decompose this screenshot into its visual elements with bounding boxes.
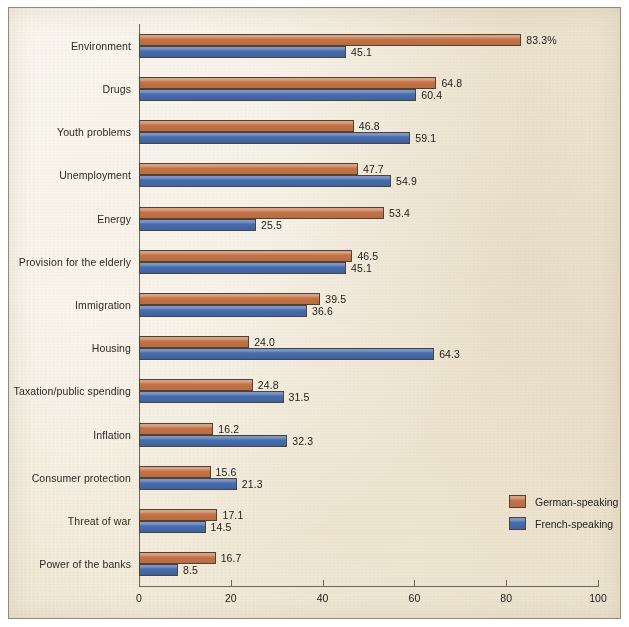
bar-value-label: 47.7 bbox=[363, 163, 384, 175]
bar-value-label: 31.5 bbox=[289, 391, 310, 403]
bar-value-label: 24.8 bbox=[258, 379, 279, 391]
bar-value-label: 64.8 bbox=[441, 77, 462, 89]
bar-french bbox=[139, 435, 287, 447]
bar-value-label: 60.4 bbox=[421, 89, 442, 101]
category-label: Inflation bbox=[9, 429, 131, 441]
category-label: Threat of war bbox=[9, 515, 131, 527]
bar-french bbox=[139, 219, 256, 231]
category-label: Drugs bbox=[9, 83, 131, 95]
bar-german bbox=[139, 509, 217, 521]
bar-german bbox=[139, 552, 216, 564]
x-axis-tick bbox=[139, 580, 140, 586]
bar-german bbox=[139, 34, 521, 46]
legend-item-german: German-speaking bbox=[509, 495, 618, 508]
bar-french bbox=[139, 305, 307, 317]
category-label: Provision for the elderly bbox=[9, 256, 131, 268]
bar-french bbox=[139, 175, 391, 187]
bar-value-label: 83.3% bbox=[526, 34, 556, 46]
legend-label-french: French-speaking bbox=[535, 518, 613, 530]
bar-value-label: 54.9 bbox=[396, 175, 417, 187]
x-axis-tick bbox=[598, 580, 599, 586]
bar-german bbox=[139, 163, 358, 175]
bar-value-label: 17.1 bbox=[222, 509, 243, 521]
bar-value-label: 59.1 bbox=[415, 132, 436, 144]
bar-german bbox=[139, 250, 352, 262]
x-axis-tick-label: 80 bbox=[500, 592, 512, 604]
bar-value-label: 32.3 bbox=[292, 435, 313, 447]
legend-item-french: French-speaking bbox=[509, 517, 618, 530]
bar-value-label: 15.6 bbox=[216, 466, 237, 478]
x-axis-tick bbox=[506, 580, 507, 586]
bar-french bbox=[139, 478, 237, 490]
bar-french bbox=[139, 391, 284, 403]
bar-value-label: 53.4 bbox=[389, 207, 410, 219]
bar-french bbox=[139, 46, 346, 58]
category-label: Youth problems bbox=[9, 126, 131, 138]
bar-german bbox=[139, 336, 249, 348]
bar-german bbox=[139, 293, 320, 305]
bar-value-label: 64.3 bbox=[439, 348, 460, 360]
x-axis-tick-label: 60 bbox=[409, 592, 421, 604]
bar-german bbox=[139, 379, 253, 391]
legend-swatch-german-icon bbox=[509, 495, 526, 508]
bar-value-label: 46.8 bbox=[359, 120, 380, 132]
bar-value-label: 14.5 bbox=[211, 521, 232, 533]
chart-legend: German-speaking French-speaking bbox=[509, 495, 618, 539]
bar-value-label: 8.5 bbox=[183, 564, 198, 576]
bar-value-label: 16.7 bbox=[221, 552, 242, 564]
bar-german bbox=[139, 423, 213, 435]
x-axis-tick bbox=[231, 580, 232, 586]
bar-value-label: 45.1 bbox=[351, 46, 372, 58]
x-axis-tick bbox=[414, 580, 415, 586]
bar-french bbox=[139, 564, 178, 576]
category-label: Energy bbox=[9, 213, 131, 225]
x-axis-tick-label: 0 bbox=[136, 592, 142, 604]
bar-german bbox=[139, 77, 436, 89]
bar-german bbox=[139, 207, 384, 219]
bar-value-label: 21.3 bbox=[242, 478, 263, 490]
bar-value-label: 45.1 bbox=[351, 262, 372, 274]
chart-figure: 020406080100Environment83.3%45.1Drugs64.… bbox=[8, 7, 621, 619]
bar-value-label: 25.5 bbox=[261, 219, 282, 231]
bar-value-label: 24.0 bbox=[254, 336, 275, 348]
x-axis-tick-label: 100 bbox=[589, 592, 607, 604]
category-label: Consumer protection bbox=[9, 472, 131, 484]
x-axis-tick-label: 20 bbox=[225, 592, 237, 604]
bar-value-label: 46.5 bbox=[357, 250, 378, 262]
x-axis-tick bbox=[323, 580, 324, 586]
bar-french bbox=[139, 348, 434, 360]
bar-value-label: 36.6 bbox=[312, 305, 333, 317]
category-label: Housing bbox=[9, 342, 131, 354]
category-label: Environment bbox=[9, 40, 131, 52]
x-axis-line bbox=[139, 586, 599, 587]
bar-value-label: 39.5 bbox=[325, 293, 346, 305]
bar-value-label: 16.2 bbox=[218, 423, 239, 435]
bar-german bbox=[139, 466, 211, 478]
bar-french bbox=[139, 89, 416, 101]
bar-french bbox=[139, 132, 410, 144]
legend-label-german: German-speaking bbox=[535, 496, 618, 508]
category-label: Taxation/public spending bbox=[9, 385, 131, 397]
category-label: Immigration bbox=[9, 299, 131, 311]
bar-german bbox=[139, 120, 354, 132]
x-axis-tick-label: 40 bbox=[317, 592, 329, 604]
bar-french bbox=[139, 262, 346, 274]
category-label: Unemployment bbox=[9, 169, 131, 181]
bar-french bbox=[139, 521, 206, 533]
legend-swatch-french-icon bbox=[509, 517, 526, 530]
category-label: Power of the banks bbox=[9, 558, 131, 570]
